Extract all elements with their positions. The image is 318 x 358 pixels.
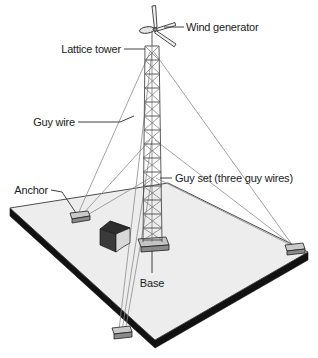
label-base: Base — [140, 277, 164, 289]
diagram-canvas: Wind generator Lattice tower Guy wire An… — [0, 0, 318, 358]
ground-plane — [10, 183, 308, 340]
wind-generator-rotor — [152, 6, 176, 47]
anchor-front — [112, 326, 132, 339]
label-guy-wire: Guy wire — [33, 116, 75, 128]
wind-generator — [139, 6, 176, 47]
label-anchor: Anchor — [14, 184, 48, 196]
wind-turbine-diagram: Wind generator Lattice tower Guy wire An… — [0, 0, 318, 358]
label-wind-generator: Wind generator — [186, 21, 259, 33]
leader-guy-wire — [78, 116, 134, 122]
anchor-right — [285, 243, 305, 255]
label-guy-set: Guy set (three guy wires) — [175, 172, 293, 184]
label-lattice-tower: Lattice tower — [61, 43, 121, 55]
